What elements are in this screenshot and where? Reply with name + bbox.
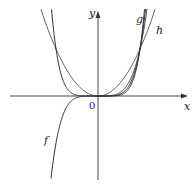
label-h: h	[156, 24, 163, 37]
origin-label: 0	[89, 100, 95, 111]
x-axis-label: x	[184, 100, 191, 113]
y-axis-arrow-icon	[96, 11, 101, 18]
y-axis-label: y	[88, 7, 96, 20]
label-f: f	[43, 134, 50, 147]
label-g: g	[136, 13, 143, 26]
power-functions-graph: y x 0 g h f	[0, 0, 195, 184]
x-axis-arrow-icon	[181, 94, 188, 99]
